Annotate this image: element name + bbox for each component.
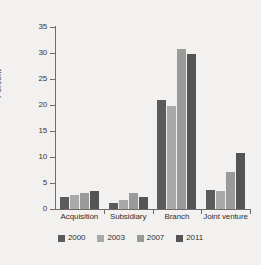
bar [80,193,89,209]
bar [177,49,186,209]
y-axis-tick-label: 15 [0,127,47,135]
x-axis-separator-tick [104,209,105,214]
bar-group [109,20,148,209]
bar [90,191,99,209]
legend-label: 2007 [147,234,164,242]
y-axis-title: Percent [0,69,3,98]
bar [157,100,166,209]
bar [216,191,225,209]
bar-chart: Percent 05101520253035 AcquisitionSubsid… [0,0,261,265]
legend-label: 2011 [186,234,203,242]
legend-item[interactable]: 2003 [97,234,124,242]
y-axis-tick-label: 5 [0,179,47,187]
bar [60,197,69,209]
bar [70,195,79,209]
y-axis-tick-label: 25 [0,75,47,83]
legend-swatch-icon [137,235,144,242]
y-axis-tick [50,209,55,210]
x-axis-separator-tick [250,209,251,214]
bar [226,172,235,209]
chart-legend: 2000200320072011 [0,234,261,242]
bar-group [206,20,245,209]
x-axis-separator-tick [201,209,202,214]
bar [187,54,196,209]
y-axis-tick-label: 0 [0,205,47,213]
legend-item[interactable]: 2011 [176,234,203,242]
x-axis-label: Subsidiary [104,212,153,221]
bar [139,197,148,209]
plot-area [55,20,250,209]
legend-item[interactable]: 2007 [137,234,164,242]
y-axis-tick-label: 35 [0,23,47,31]
bar [129,193,138,209]
bar [109,203,118,209]
legend-swatch-icon [58,235,65,242]
x-axis-label: Acquisition [55,212,104,221]
legend-swatch-icon [97,235,104,242]
legend-label: 2000 [68,234,85,242]
legend-item[interactable]: 2000 [58,234,85,242]
x-axis-separator-tick [153,209,154,214]
bar [236,153,245,209]
y-axis-tick-label: 10 [0,153,47,161]
x-axis-label: Joint venture [201,212,250,221]
bar [119,200,128,209]
bar [206,190,215,209]
y-axis-tick-label: 30 [0,49,47,57]
bar-group [60,20,99,209]
x-axis-label: Branch [153,212,202,221]
legend-label: 2003 [107,234,124,242]
legend-swatch-icon [176,235,183,242]
bar [167,106,176,209]
bar-group [157,20,196,209]
y-axis-tick-label: 20 [0,101,47,109]
